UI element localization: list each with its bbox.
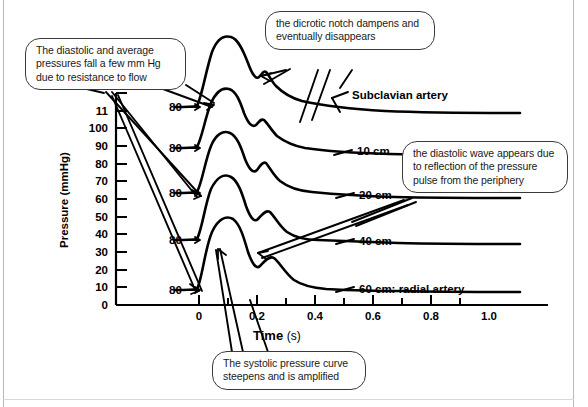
baseline-arrow-5 <box>186 287 200 293</box>
leader-label-subclavian-2 <box>332 98 340 112</box>
trace-label-20cm: 20 cm <box>359 189 392 201</box>
x-tick-0: 0 <box>182 310 216 322</box>
baseline-label-20cm: 80 <box>169 187 182 199</box>
x-tick-0.8: 0.8 <box>414 310 448 322</box>
x-tick-0.6: 0.6 <box>356 310 390 322</box>
y-tick-30: 30 <box>74 246 108 258</box>
callout-systolic-steepens: The systolic pressure curve steepens and… <box>212 351 366 390</box>
x-tick-1.0: 1.0 <box>472 310 506 322</box>
baseline-arrow-2 <box>186 145 200 151</box>
y-tick-20: 20 <box>74 264 108 276</box>
baseline-arrow-1 <box>186 104 200 110</box>
trace-label-60cm-radial-artery: 60 cm: radial artery <box>359 283 464 295</box>
x-tick-0.2: 0.2 <box>240 310 274 322</box>
leader-reflection-c <box>352 198 412 222</box>
y-tick-70: 70 <box>74 175 108 187</box>
trace-label-10cm: 10 cm <box>357 145 390 157</box>
y-tick-0: 0 <box>74 299 108 311</box>
y-tick-100: 100 <box>74 122 108 134</box>
y-tick-60: 60 <box>74 193 108 205</box>
trace-label-subclavian-artery: Subclavian artery <box>352 89 448 101</box>
leader-dicrotic-e <box>340 70 352 88</box>
trace-label-40cm: 40 cm <box>359 235 392 247</box>
x-axis-title-bold: Time <box>253 328 283 343</box>
leader-dicrotic-c <box>300 70 318 122</box>
y-tick-110: 11 <box>74 105 108 117</box>
y-tick-50: 50 <box>74 211 108 223</box>
leader-systolic-c <box>250 300 268 352</box>
callout-dicrotic-notch: the dicrotic notch dampens and eventuall… <box>265 11 435 50</box>
x-axis-title-unit: (s) <box>287 329 301 343</box>
y-axis-title: Pressure (mmHg) <box>58 152 70 248</box>
baseline-label-60cm: 80 <box>169 284 182 296</box>
callout-diastolic-average-fall: The diastolic and average pressures fall… <box>25 38 186 90</box>
x-axis-ticks <box>199 295 460 305</box>
baseline-label-10cm: 80 <box>169 142 182 154</box>
leader-label-subclavian <box>332 92 348 98</box>
y-tick-40: 40 <box>74 228 108 240</box>
baseline-label-subclavian: 80 <box>169 101 182 113</box>
figure-page: Pressure (mmHg) 11 100 90 80 70 60 50 40… <box>0 0 588 407</box>
baseline-label-40cm: 80 <box>169 234 182 246</box>
leader-arrowhead-5 <box>258 251 268 259</box>
baseline-arrow-4 <box>186 237 200 243</box>
y-tick-80: 80 <box>74 158 108 170</box>
callout-diastolic-wave-reflection: the diastolic wave appears due to reflec… <box>402 141 568 193</box>
x-axis-title: Time (s) <box>253 328 301 343</box>
y-tick-90: 90 <box>74 140 108 152</box>
x-tick-0.4: 0.4 <box>298 310 332 322</box>
y-tick-10: 10 <box>74 281 108 293</box>
